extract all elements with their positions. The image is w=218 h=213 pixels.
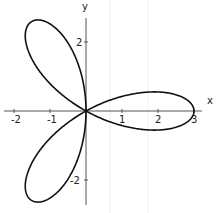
polar-plot: -2-11232-2 x y [0, 0, 218, 213]
y-axis-label: y [82, 1, 88, 12]
x-tick-label: -1 [47, 114, 57, 125]
x-tick-label: 2 [155, 114, 161, 125]
y-tick-label: 2 [76, 37, 82, 48]
x-tick-label: 3 [191, 114, 197, 125]
x-axis-label: x [207, 95, 213, 106]
x-tick-label: 1 [119, 114, 125, 125]
plot-canvas: -2-11232-2 x y [0, 0, 218, 213]
y-tick-label: -2 [70, 175, 80, 186]
x-tick-label: -2 [11, 114, 21, 125]
